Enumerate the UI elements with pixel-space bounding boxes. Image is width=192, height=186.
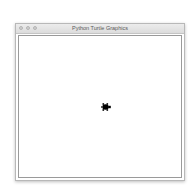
window-title: Python Turtle Graphics [16, 24, 184, 33]
turtle-icon [100, 101, 112, 113]
turtle-canvas[interactable] [18, 35, 182, 178]
title-bar[interactable]: Python Turtle Graphics [16, 24, 184, 34]
turtle-graphics-window: Python Turtle Graphics [15, 23, 185, 181]
